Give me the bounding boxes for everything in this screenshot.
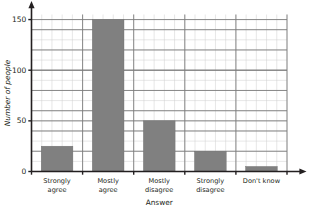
y-axis-title: Number of people xyxy=(3,59,12,126)
x-axis-tick-label: Mostly xyxy=(149,177,171,185)
bar xyxy=(41,146,73,171)
x-axis-tick-label: agree xyxy=(48,186,67,194)
bar xyxy=(195,151,227,171)
y-axis-arrow xyxy=(28,1,34,8)
y-axis-tick-label: 0 xyxy=(22,167,27,176)
bar-group xyxy=(143,121,175,172)
bar-group xyxy=(195,151,227,171)
x-axis-tick-label: Mostly xyxy=(97,177,119,185)
x-axis-tick-label: Don't know xyxy=(243,177,281,185)
x-axis-tick-label: agree xyxy=(99,186,118,194)
x-axis-arrow xyxy=(299,168,306,174)
chart-canvas: 050100150StronglyagreeMostlyagreeMostlyd… xyxy=(0,0,309,209)
x-axis-tick-label: disagree xyxy=(196,186,224,194)
bar xyxy=(92,20,124,172)
bar-chart: 050100150StronglyagreeMostlyagreeMostlyd… xyxy=(0,0,309,209)
y-axis-tick-label: 150 xyxy=(12,15,27,24)
x-axis-tick-label: disagree xyxy=(145,186,173,194)
x-axis-title: Answer xyxy=(146,198,174,207)
x-axis-tick-label: Strongly xyxy=(43,177,71,185)
bar-group xyxy=(41,146,73,171)
bar xyxy=(143,121,175,172)
bar-group xyxy=(92,20,124,172)
y-axis-tick-label: 100 xyxy=(12,66,27,75)
y-axis-tick-label: 50 xyxy=(17,116,27,125)
x-axis-tick-label: Strongly xyxy=(197,177,225,185)
